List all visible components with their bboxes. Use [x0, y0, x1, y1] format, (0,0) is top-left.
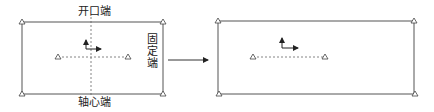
inner-support-icons: [250, 54, 328, 59]
label-axis-end: 轴心端: [78, 97, 111, 108]
left-panel: [19, 17, 166, 97]
corner-support-icons: [19, 19, 166, 96]
right-plate-rect: [218, 21, 414, 94]
left-plate-rect: [22, 22, 163, 94]
diagram-canvas: [0, 0, 434, 112]
corner-support-icons: [215, 18, 418, 96]
label-open-end: 开口端: [78, 6, 111, 17]
label-fixed-end: 固定端: [147, 34, 159, 70]
coordinate-axes-icon: [86, 40, 101, 49]
right-panel: [215, 18, 418, 96]
coordinate-axes-icon: [282, 38, 298, 48]
inner-support-icons: [55, 54, 131, 59]
